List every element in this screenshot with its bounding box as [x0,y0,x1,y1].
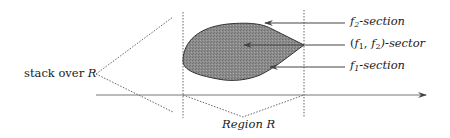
region-label-var: R [267,117,276,131]
f2-rest: -section [359,14,405,28]
f2-section-label: f2-section [350,16,405,29]
stack-cone [96,17,173,112]
sector-label: (f1, f2)-sector [350,38,425,51]
stack-over-r-label: stack over R [24,68,97,80]
region-bracket [183,95,304,117]
stack-label-text: stack over [24,66,88,80]
f1-section-label: f1-section [350,60,405,73]
region-r-label: Region R [222,119,275,131]
sector-shape [183,23,304,80]
cone-upper-ray [96,17,173,74]
cone-lower-ray [96,74,173,112]
sector-close: )-sector [381,36,426,50]
stack-label-var: R [88,66,97,80]
region-label-text: Region [222,117,267,131]
f1-rest: -section [359,58,405,72]
